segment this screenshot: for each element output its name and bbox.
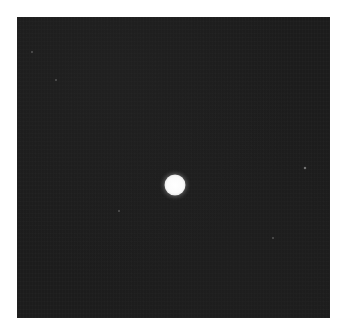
faint-star-2 bbox=[118, 210, 120, 212]
faint-star-5 bbox=[55, 79, 57, 81]
faint-star-3 bbox=[272, 237, 274, 239]
bright-star bbox=[165, 175, 186, 196]
faint-star-1 bbox=[304, 167, 307, 170]
night-sky-photo bbox=[17, 17, 330, 318]
faint-star-4 bbox=[31, 51, 33, 53]
